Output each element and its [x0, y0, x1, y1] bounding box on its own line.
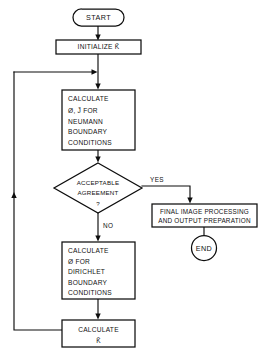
arrowhead-final-box	[187, 198, 192, 204]
calculate-neumann-line-3: NEUMANN	[68, 118, 103, 125]
edge-yes-branch	[142, 186, 190, 200]
edge-label-no: NO	[103, 222, 113, 229]
decision-line-1: ACCEPTABLE	[77, 179, 119, 186]
node-initialize[interactable]: INITIALIZE K̃	[56, 40, 141, 54]
final-processing-line-1: FINAL IMAGE PROCESSING	[160, 208, 249, 215]
node-end[interactable]: END	[192, 236, 217, 261]
node-start[interactable]: START	[73, 9, 124, 26]
end-label: END	[196, 244, 212, 253]
arrowhead-feedback-up	[11, 192, 16, 198]
flowchart-canvas: START INITIALIZE K̃ CALCULATE Ø, J̃ FOR …	[0, 0, 273, 356]
arrowhead-neumann	[95, 84, 100, 90]
calculate-neumann-line-4: BOUNDARY	[68, 128, 108, 135]
calculate-dirichlet-line-2: Ø FOR	[68, 258, 90, 265]
decision-line-2: AGREEMENT	[78, 189, 119, 196]
arrowhead-feedback-join	[92, 69, 98, 74]
arrowhead-dirichlet	[95, 236, 100, 242]
calculate-dirichlet-line-4: BOUNDARY	[68, 279, 108, 286]
arrowhead-decision	[95, 157, 100, 163]
calculate-k-line-2: K̃	[96, 337, 101, 344]
node-final-processing[interactable]: FINAL IMAGE PROCESSING AND OUTPUT PREPAR…	[152, 204, 257, 227]
calculate-neumann-line-2: Ø, J̃ FOR	[68, 107, 98, 114]
node-decision[interactable]: ACCEPTABLE AGREEMENT ?	[54, 163, 142, 213]
edge-label-yes: YES	[150, 176, 164, 183]
calculate-dirichlet-line-5: CONDITIONS	[68, 289, 112, 296]
start-label: START	[86, 13, 111, 22]
edge-calck-feedback-left	[14, 72, 62, 330]
calculate-dirichlet-line-3: DIRICHLET	[68, 268, 105, 275]
node-calculate-neumann[interactable]: CALCULATE Ø, J̃ FOR NEUMANN BOUNDARY CON…	[62, 90, 135, 150]
decision-line-3: ?	[96, 200, 100, 207]
initialize-label: INITIALIZE K̃	[78, 43, 120, 50]
calculate-dirichlet-line-1: CALCULATE	[68, 247, 109, 254]
arrowhead-calck	[95, 314, 100, 320]
node-calculate-dirichlet[interactable]: CALCULATE Ø FOR DIRICHLET BOUNDARY CONDI…	[62, 242, 135, 299]
calculate-k-line-1: CALCULATE	[78, 326, 119, 333]
calculate-neumann-line-1: CALCULATE	[68, 95, 109, 102]
final-processing-line-2: AND OUTPUT PREPARATION	[158, 217, 251, 224]
node-calculate-k[interactable]: CALCULATE K̃	[62, 320, 135, 347]
calculate-neumann-line-5: CONDITIONS	[68, 139, 112, 146]
